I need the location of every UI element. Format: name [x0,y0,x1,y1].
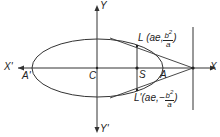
latus-upper-name: L [138,32,143,43]
directrix-intersection-point [191,66,194,69]
y-axis-arrow-down-icon [95,127,100,133]
latus-upper-suffix: ) [173,32,176,43]
y-axis-label: Y [100,1,107,11]
latus-upper-fraction: b2a [163,28,173,49]
y-axis-arrow-up-icon [95,5,100,11]
latus-lower-suffix: ) [174,92,177,103]
vertex-right-label: A [160,70,167,80]
x-prime-axis-label: X' [4,62,13,72]
y-prime-axis-label: Y' [100,124,109,134]
x-axis-label: X [210,62,217,72]
ellipse-diagram: Y Y' X' X A' C S A L (ae,b2a) L'(ae,−b2a… [0,0,220,137]
center-point [96,67,98,69]
frac-exp: 2 [169,29,172,35]
latus-upper-label: L (ae,b2a) [138,28,177,49]
latus-lower-fraction: b2a [165,88,175,109]
center-label: C [89,71,96,81]
frac-den: a [163,41,173,49]
frac-den: a [165,101,175,109]
vertex-left-label: A' [22,71,31,81]
frac-exp: 2 [170,89,173,95]
latus-lower-label: L'(ae,−b2a) [134,88,178,109]
focus-label: S [139,70,146,80]
latus-lower-prefix: (ae, [141,92,158,103]
latus-upper-prefix: (ae, [146,32,163,43]
diagram-canvas [0,0,220,137]
